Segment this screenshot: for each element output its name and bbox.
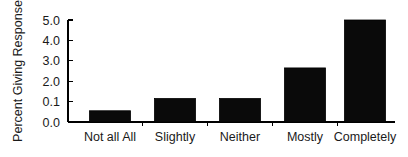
bar-neither — [220, 99, 261, 122]
y-axis-title: Percent Giving Response — [11, 0, 25, 142]
y-axis-tick-label: 0.0 — [43, 116, 60, 130]
x-axis-category-label: Neither — [220, 130, 260, 144]
x-axis-category-label: Completely — [334, 130, 397, 144]
bar-not-all-all — [90, 111, 131, 122]
chart-canvas: Percent Giving Response 0.00.12.03.04.05… — [0, 0, 408, 157]
x-axis-category-label: Slightly — [155, 130, 196, 144]
bar-mostly — [285, 68, 326, 122]
x-axis-label-group: Not all AllSlightlyNeitherMostlyComplete… — [84, 130, 397, 144]
y-axis-tick-label: 3.0 — [43, 54, 60, 68]
y-axis-tick-label: 2.0 — [43, 75, 60, 89]
bar-completely — [345, 20, 386, 122]
y-axis-tick-label: 0.1 — [43, 95, 60, 109]
bar-slightly — [155, 99, 196, 122]
y-axis-tick-label: 5.0 — [43, 14, 60, 28]
bar-chart-figure: Percent Giving Response 0.00.12.03.04.05… — [0, 0, 408, 157]
x-axis-category-label: Not all All — [84, 130, 136, 144]
x-axis-category-label: Mostly — [287, 130, 324, 144]
y-axis-tick-label: 4.0 — [43, 34, 60, 48]
